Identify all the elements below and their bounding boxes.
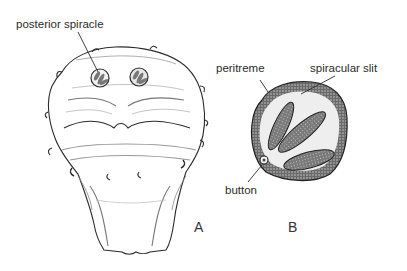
panel-letter-a: A — [194, 220, 203, 234]
leader-peritreme — [260, 80, 268, 92]
panel-a-body — [45, 46, 208, 254]
diagram-drawing — [0, 0, 407, 271]
panel-letter-b: B — [288, 220, 297, 234]
label-button: button — [225, 185, 257, 197]
label-spiracular-slit: spiracular slit — [310, 63, 377, 75]
label-posterior-spiracle: posterior spiracle — [16, 19, 104, 31]
leader-button — [248, 165, 262, 182]
panel-b-spiracle — [252, 82, 348, 181]
left-posterior-spiracle — [91, 69, 109, 87]
right-posterior-spiracle — [130, 68, 148, 86]
figure: posterior spiracle peritreme spiracular … — [0, 0, 407, 271]
label-peritreme: peritreme — [216, 63, 265, 75]
